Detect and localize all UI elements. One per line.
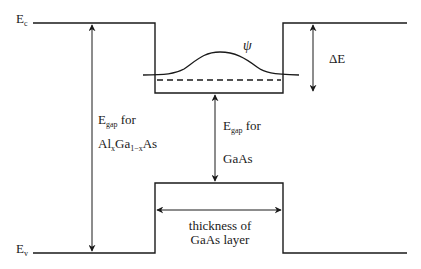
egap-algaas-label-line2: AlxGa1−xAs — [98, 137, 157, 151]
ec-label: Ec — [16, 12, 28, 26]
egap-gaas-label-line1: Egap for — [223, 119, 261, 133]
egap-gaas-label-line2: GaAs — [223, 152, 253, 166]
thickness-label-line1: thickness of — [186, 219, 254, 233]
ev-label: Ev — [16, 242, 28, 256]
delta-e-label: ΔE — [329, 52, 345, 66]
thickness-label-line2: GaAs layer — [186, 233, 254, 247]
psi-label: ψ — [243, 39, 252, 53]
wavefunction-curve — [143, 52, 299, 75]
conduction-band-line — [33, 23, 407, 93]
egap-algaas-label-line1: Egap for — [98, 113, 136, 127]
